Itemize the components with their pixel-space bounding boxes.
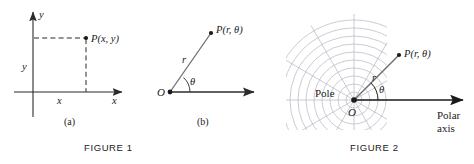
origin-O-label: O	[348, 106, 356, 118]
origin-O-marker	[168, 90, 173, 95]
pole-marker	[351, 97, 357, 103]
figure-1: P(x, y) y x y x O P(r, θ)	[0, 0, 286, 164]
panel-b-sublabel: (b)	[197, 116, 209, 127]
x-axis-label: x	[111, 95, 117, 106]
grid-spoke	[280, 100, 354, 143]
point-P-label: P(r, θ)	[215, 24, 243, 36]
radius-label: r	[182, 54, 187, 65]
figure-1-caption: FIGURE 1	[84, 142, 133, 153]
polar-axis-label-line2: axis	[437, 122, 455, 134]
panel-a-sublabel: (a)	[64, 116, 75, 127]
polar-axis-label-line1: Polar	[437, 109, 461, 121]
point-P-label: P(x, y)	[90, 33, 119, 45]
panel-b-polar-vector: O P(r, θ) r θ	[157, 24, 254, 98]
angle-label: θ	[379, 84, 384, 95]
figure-2: Pole O P(r, θ) r θ Polar axis FIGURE 2	[286, 0, 474, 164]
point-P-marker	[397, 53, 401, 57]
angle-label: θ	[190, 76, 195, 87]
origin-O-label: O	[157, 86, 165, 98]
pole-label: Pole	[315, 87, 335, 99]
point-P-marker	[209, 31, 213, 35]
point-P-marker	[84, 36, 88, 40]
y-axis-label: y	[38, 9, 44, 20]
figure-2-canvas: Pole O P(r, θ) r θ Polar axis	[286, 0, 474, 164]
figure-sheet: P(x, y) y x y x O P(r, θ)	[0, 0, 474, 164]
panel-a-cartesian: P(x, y) y x y x	[14, 9, 122, 117]
angle-arc	[371, 83, 378, 100]
grid-spoke	[354, 100, 397, 164]
grid-spoke	[354, 100, 429, 143]
figure-2-caption: FIGURE 2	[350, 142, 399, 153]
leg-x-label: x	[56, 95, 62, 106]
figure-1-canvas: P(x, y) y x y x O P(r, θ)	[0, 0, 286, 164]
leg-y-label: y	[21, 61, 27, 72]
point-P-label: P(r, θ)	[403, 48, 431, 60]
